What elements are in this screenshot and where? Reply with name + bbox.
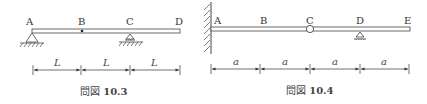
point-label-b: B [78,16,85,27]
caption-prefix: 問図 [286,85,309,96]
point-label-e: E [404,15,411,26]
roller-support-d-icon [354,32,366,39]
dimension-label: a [332,56,338,67]
hinge-c-icon [306,25,313,32]
caption-prefix: 問図 [80,86,103,97]
point-label-d: D [175,16,183,27]
point-label-c: C [306,15,314,26]
roller-support-c-icon [119,34,143,46]
figure-10-4: A B C D E a a a a 問図 10.4 [204,2,411,96]
point-label-a: A [25,16,34,27]
beam [32,29,180,33]
dimension-label: L [102,57,110,68]
fixed-wall-icon [204,2,211,54]
point-label-d: D [356,15,364,26]
dimension-lines [211,64,409,74]
dimension-label: a [233,56,239,67]
figure-10-3: A B C D L L L 問図 10.3 [20,16,183,97]
point-label-b: B [260,15,267,26]
caption-number: 10.3 [103,86,127,97]
point-label-c: C [126,16,134,27]
point-label-a: A [213,15,222,26]
dimension-label: a [381,56,387,67]
caption-number: 10.4 [309,85,333,96]
pin-support-a-icon [20,33,44,47]
dimension-label: a [282,56,288,67]
dimension-label: L [150,57,158,68]
figure-caption: 問図 10.3 [80,86,128,97]
hinge-b-dot [81,30,84,33]
figure-caption: 問図 10.4 [286,85,334,96]
dimension-label: L [53,57,61,68]
